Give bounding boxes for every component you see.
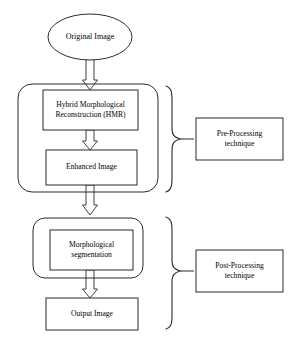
morphological-segmentation-node [50, 230, 133, 270]
original-image-node [48, 14, 132, 60]
pre-processing-brace [166, 86, 194, 192]
post-processing-brace [166, 217, 194, 329]
pre-processing-label-node [196, 118, 283, 160]
connector-hmr-to-enhanced [83, 130, 98, 150]
output-image-node [46, 298, 138, 330]
connector-enhanced-to-morph [83, 185, 98, 215]
hmr-node [43, 90, 138, 130]
flowchart-canvas [0, 0, 300, 343]
post-processing-label-node [196, 250, 283, 292]
connector-original-to-hmr [83, 59, 98, 90]
enhanced-image-node [46, 150, 137, 185]
flowchart-diagram: Original Image Hybrid Morphological Reco… [0, 0, 300, 343]
connector-morph-to-output [83, 270, 98, 298]
